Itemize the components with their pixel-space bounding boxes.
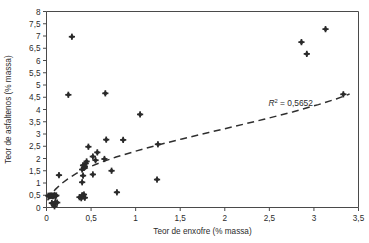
y-tick-label: 2,5 bbox=[29, 142, 41, 151]
r-squared-annotation: R2 = 0,5652 bbox=[268, 98, 313, 108]
y-tick-label: 2 bbox=[36, 155, 41, 164]
data-point bbox=[94, 149, 100, 155]
y-axis-ticks bbox=[43, 12, 47, 208]
y-tick-label: 3,5 bbox=[29, 118, 41, 127]
regression-trendline bbox=[48, 94, 350, 200]
data-point bbox=[65, 92, 71, 98]
data-point bbox=[155, 141, 161, 147]
y-tick-label: 4,5 bbox=[29, 93, 41, 102]
y-tick-label: 7 bbox=[36, 32, 41, 41]
y-tick-label: 0 bbox=[36, 204, 41, 213]
data-point bbox=[85, 144, 91, 150]
y-tick-label: 7,5 bbox=[29, 20, 41, 29]
y-tick-label: 1,5 bbox=[29, 167, 41, 176]
data-point bbox=[114, 189, 120, 195]
y-tick-label: 5 bbox=[36, 81, 41, 90]
y-tick-label: 6,5 bbox=[29, 44, 41, 53]
data-point bbox=[101, 156, 107, 162]
data-point bbox=[108, 168, 114, 174]
chart-annotations: R2 = 0,5652 bbox=[268, 98, 313, 108]
x-tick-label: 3,5 bbox=[353, 214, 365, 223]
data-point bbox=[304, 51, 310, 57]
data-point bbox=[69, 34, 75, 40]
y-tick-label: 6 bbox=[36, 57, 41, 66]
x-tick-label: 3 bbox=[312, 214, 317, 223]
y-axis-title: Teor de asfaltenos (% massa) bbox=[4, 55, 13, 164]
data-point bbox=[322, 26, 328, 32]
plot-frame bbox=[47, 12, 359, 208]
data-point bbox=[137, 111, 143, 117]
data-point bbox=[56, 172, 62, 178]
x-axis-tick-labels: 00,511,522,533,5 bbox=[44, 214, 364, 223]
x-axis-ticks bbox=[47, 208, 359, 212]
data-point bbox=[154, 176, 160, 182]
x-tick-label: 2,5 bbox=[264, 214, 276, 223]
x-axis-title: Teor de enxofre (% massa) bbox=[153, 227, 252, 236]
trendline-group bbox=[48, 94, 350, 200]
scatter-chart: 00,511,522,533,5 00,511,522,533,544,555,… bbox=[0, 0, 369, 243]
data-point bbox=[79, 179, 85, 185]
x-tick-label: 2 bbox=[223, 214, 228, 223]
data-point bbox=[298, 39, 304, 45]
data-point-series bbox=[45, 26, 346, 209]
y-tick-label: 4 bbox=[36, 106, 41, 115]
chart-canvas: 00,511,522,533,5 00,511,522,533,544,555,… bbox=[0, 0, 369, 243]
data-point bbox=[120, 137, 126, 143]
y-tick-label: 8 bbox=[36, 8, 41, 17]
y-tick-label: 0,5 bbox=[29, 191, 41, 200]
plot-border bbox=[47, 12, 359, 208]
y-tick-label: 5,5 bbox=[29, 69, 41, 78]
data-point bbox=[90, 171, 96, 177]
data-point bbox=[102, 90, 108, 96]
data-point bbox=[80, 173, 86, 179]
x-tick-label: 0 bbox=[44, 214, 49, 223]
data-point bbox=[103, 137, 109, 143]
x-tick-label: 1 bbox=[133, 214, 138, 223]
y-tick-label: 3 bbox=[36, 130, 41, 139]
x-tick-label: 0,5 bbox=[85, 214, 97, 223]
x-tick-label: 1,5 bbox=[175, 214, 187, 223]
y-tick-label: 1 bbox=[36, 179, 41, 188]
y-axis-tick-labels: 00,511,522,533,544,555,566,577,58 bbox=[29, 8, 41, 213]
